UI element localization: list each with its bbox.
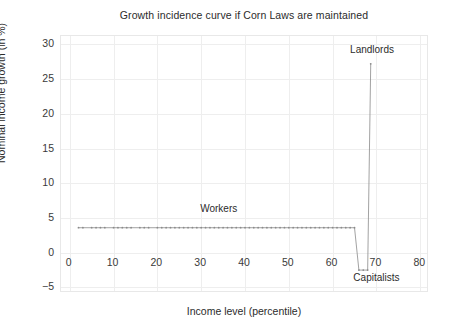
x-tick-label: 30 bbox=[185, 256, 215, 268]
growth-incidence-series bbox=[61, 36, 429, 293]
y-tick-label: 10 bbox=[24, 176, 54, 188]
y-tick-label: 25 bbox=[24, 72, 54, 84]
annotation-landlords: Landlords bbox=[350, 44, 394, 55]
y-tick-label: 30 bbox=[24, 37, 54, 49]
x-tick-label: 50 bbox=[273, 256, 303, 268]
x-tick-label: 40 bbox=[229, 256, 259, 268]
x-tick-label: 20 bbox=[141, 256, 171, 268]
chart-title: Growth incidence curve if Corn Laws are … bbox=[60, 9, 428, 21]
x-tick-label: 0 bbox=[54, 256, 84, 268]
y-axis-label: Nominal income growth (in %) bbox=[0, 23, 7, 163]
chart-figure: Growth incidence curve if Corn Laws are … bbox=[0, 0, 450, 333]
y-tick-label: 15 bbox=[24, 142, 54, 154]
x-tick-label: 80 bbox=[404, 256, 434, 268]
y-tick-label: 0 bbox=[24, 246, 54, 258]
x-axis-label: Income level (percentile) bbox=[60, 305, 428, 317]
plot-area: WorkersLandlordsCapitalists bbox=[60, 35, 428, 292]
x-tick-label: 60 bbox=[317, 256, 347, 268]
x-tick-label: 70 bbox=[360, 256, 390, 268]
annotation-capitalists: Capitalists bbox=[353, 272, 399, 283]
annotation-workers: Workers bbox=[200, 203, 237, 214]
y-tick-label: −5 bbox=[24, 280, 54, 292]
y-tick-label: 5 bbox=[24, 211, 54, 223]
x-tick-label: 10 bbox=[98, 256, 128, 268]
y-tick-label: 20 bbox=[24, 107, 54, 119]
